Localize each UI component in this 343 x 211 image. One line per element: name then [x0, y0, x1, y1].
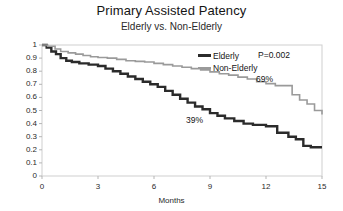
legend-item-non-elderly: Non-Elderly — [198, 62, 328, 73]
x-axis-tick-label: 9 — [200, 182, 220, 191]
y-axis-tick-label: 0.4 — [15, 119, 37, 128]
x-axis-title: Months — [0, 196, 343, 205]
x-axis-tick-label: 3 — [88, 182, 108, 191]
y-axis-tick-label: 0.9 — [15, 53, 37, 62]
plot-area — [0, 0, 343, 211]
x-axis-tick-label: 12 — [256, 182, 276, 191]
y-axis-tick-label: 0.5 — [15, 106, 37, 115]
y-axis-tick-label: 0.6 — [15, 92, 37, 101]
y-axis-tick-label: 0.3 — [15, 132, 37, 141]
chart-figure: Primary Assisted Patency Elderly vs. Non… — [0, 0, 343, 211]
legend-line-elderly-icon — [198, 54, 211, 57]
legend-line-non-elderly-icon — [198, 67, 211, 69]
legend-label-non-elderly: Non-Elderly — [213, 63, 257, 73]
annotation-elderly-percent: 39% — [186, 115, 203, 125]
y-axis-tick-label: 1 — [15, 40, 37, 49]
x-axis-tick-label: 6 — [144, 182, 164, 191]
legend-label-elderly: Elderly — [213, 51, 239, 61]
y-axis-tick-label: 0.7 — [15, 79, 37, 88]
y-axis-tick-label: 0.1 — [15, 158, 37, 167]
y-axis-tick-label: 0.8 — [15, 66, 37, 75]
y-axis-tick-label: 0 — [15, 171, 37, 180]
y-axis-tick-label: 0.2 — [15, 145, 37, 154]
x-axis-tick-label: 15 — [312, 182, 332, 191]
x-axis-tick-label: 0 — [32, 182, 52, 191]
p-value-text: P=0.002 — [258, 50, 290, 60]
annotation-non-elderly-percent: 69% — [256, 74, 273, 84]
